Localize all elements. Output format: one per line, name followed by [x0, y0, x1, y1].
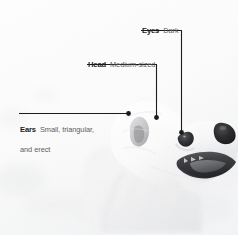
- callout-ears[interactable]: Ears Small, triangular, and erect: [20, 117, 98, 158]
- callout-head-term: Head: [88, 60, 106, 69]
- callout-head[interactable]: Head Medium-sized: [88, 52, 155, 72]
- callout-eyes-term: Eyes: [142, 26, 159, 35]
- annotated-dog-figure: Eyes Dark Head Medium-sized Ears Small, …: [0, 0, 238, 235]
- eye-catchlight: [183, 136, 186, 138]
- callout-eyes[interactable]: Eyes Dark: [142, 18, 179, 38]
- callout-eyes-description: Dark: [163, 26, 178, 35]
- callout-head-description: Medium-sized: [110, 60, 155, 69]
- callout-ears-term: Ears: [20, 125, 36, 134]
- nose-highlight: [220, 126, 226, 130]
